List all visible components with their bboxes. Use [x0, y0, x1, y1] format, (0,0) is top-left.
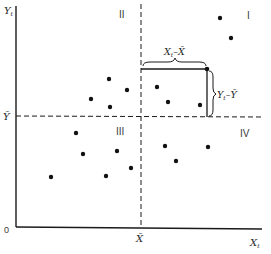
y-axis-label: Yt [4, 5, 14, 17]
data-point [218, 16, 222, 20]
quadrant-label-i: I [247, 10, 250, 21]
quadrant-label-iii: III [116, 126, 124, 137]
x-axis [16, 227, 262, 229]
data-point [49, 175, 53, 179]
data-point [125, 88, 129, 92]
data-point [104, 174, 108, 178]
quadrant-label-ii: II [119, 9, 125, 20]
data-point [206, 145, 210, 149]
data-point [74, 131, 78, 135]
data-point [166, 100, 170, 104]
x-deviation-label: Xt–X̄ [163, 46, 186, 58]
x-mean-label: X̄ [135, 233, 144, 244]
data-point [81, 152, 85, 156]
data-point [155, 85, 159, 89]
data-point [129, 166, 133, 170]
data-point-highlighted [205, 67, 210, 72]
data-point [163, 144, 167, 148]
y-mean-dashed-line [16, 116, 263, 117]
data-point [108, 105, 112, 109]
quadrant-scatter-diagram: Yt Xt 0 Ȳ X̄ I II III IV Xt–X̄ Yt–Ȳ [0, 0, 271, 254]
quadrant-label-iv: IV [240, 128, 250, 139]
data-point [115, 149, 119, 153]
x-deviation-brace [143, 58, 206, 66]
data-point [229, 36, 233, 40]
origin-label: 0 [4, 225, 9, 235]
data-point [107, 77, 111, 81]
y-mean-label: Ȳ [3, 111, 11, 122]
data-point [174, 159, 178, 163]
y-deviation-brace [209, 71, 216, 116]
data-point [198, 103, 202, 107]
y-deviation-label: Yt–Ȳ [217, 89, 238, 101]
data-point [89, 97, 93, 101]
x-axis-label: Xt [249, 237, 260, 249]
